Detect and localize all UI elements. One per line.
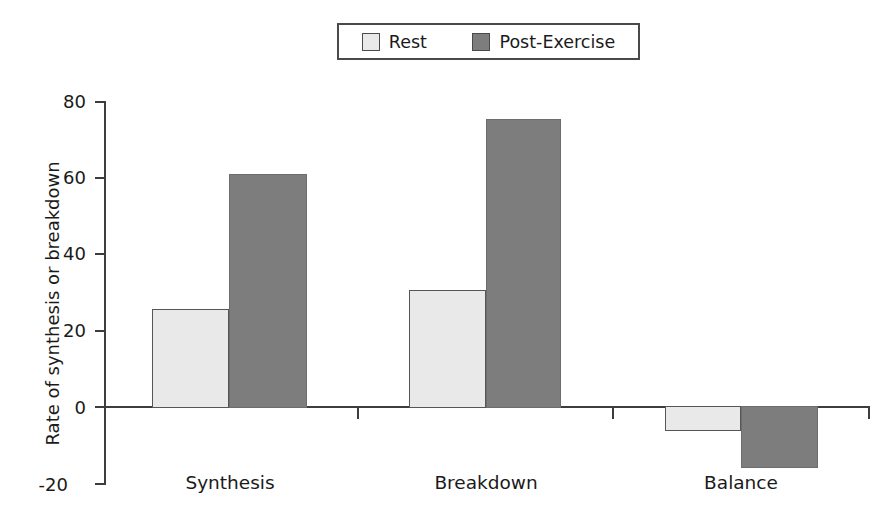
bar-chart-figure: Rest Post-Exercise 80 60 40 20 0 -20 [0, 0, 890, 523]
y-tick-mark [95, 483, 105, 485]
y-axis-spine [104, 101, 106, 485]
y-tick-label-minus-20: -20 [22, 474, 68, 495]
x-tick-mark [612, 408, 614, 419]
plot-area: 80 60 40 20 0 -20 Synthesis Breakdown Ba… [0, 0, 890, 523]
bar-rest-balance [665, 406, 741, 431]
y-tick-mark [95, 253, 105, 255]
y-tick-label-80: 80 [40, 91, 86, 112]
x-tick-mark [868, 408, 870, 419]
bar-post-exercise-synthesis [229, 174, 307, 408]
y-tick-mark [95, 406, 105, 408]
y-tick-mark [95, 177, 105, 179]
x-tick-mark [357, 408, 359, 419]
bar-post-exercise-breakdown [486, 119, 561, 408]
x-axis-label-breakdown: Breakdown [434, 472, 537, 493]
y-tick-mark [95, 101, 105, 103]
y-tick-mark [95, 330, 105, 332]
bar-post-exercise-balance [741, 406, 818, 468]
y-axis-title: Rate of synthesis or breakdown [42, 166, 63, 446]
bar-rest-breakdown [409, 290, 486, 408]
bar-rest-synthesis [152, 309, 229, 408]
x-axis-label-balance: Balance [704, 472, 778, 493]
x-axis-label-synthesis: Synthesis [185, 472, 274, 493]
